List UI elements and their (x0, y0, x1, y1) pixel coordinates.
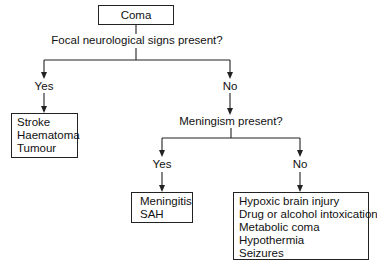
focal-no-label: No (222, 80, 239, 93)
focal-signs-question: Focal neurological signs present? (50, 34, 223, 47)
meningism-no-label: No (292, 158, 309, 171)
cause-item: Drug or alcohol intoxication (239, 208, 368, 221)
other-causes-node: Hypoxic brain injury Drug or alcohol int… (233, 192, 369, 260)
cause-item: Hypoxic brain injury (239, 195, 368, 208)
cause-item: SAH (140, 208, 192, 221)
coma-node: Coma (98, 5, 174, 25)
cause-item: Stroke (17, 116, 77, 129)
meningism-yes-label: Yes (152, 158, 173, 171)
cause-item: Haematoma (17, 129, 77, 142)
cause-item: Metabolic coma (239, 221, 368, 234)
coma-label: Coma (99, 9, 173, 22)
cause-item: Meningitis (140, 195, 192, 208)
meningism-question: Meningism present? (178, 115, 284, 128)
focal-yes-label: Yes (34, 80, 55, 93)
cause-item: Hypothermia (239, 234, 368, 247)
cause-item: Seizures (239, 247, 368, 260)
focal-causes-node: Stroke Haematoma Tumour (11, 113, 78, 158)
cause-item: Tumour (17, 142, 77, 155)
meningism-causes-node: Meningitis SAH (131, 192, 193, 223)
